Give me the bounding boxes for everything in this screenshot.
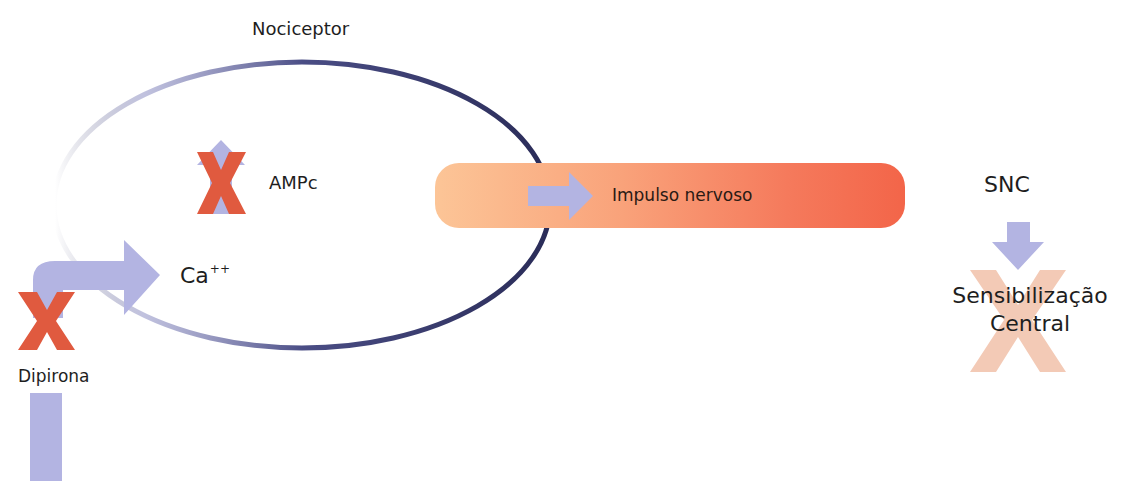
dipirona-label: Dipirona [18, 366, 90, 386]
calcium-charge: ++ [210, 262, 230, 276]
ampc-label: AMPc [269, 172, 318, 193]
dipirona-stem-bar [30, 393, 62, 481]
diagram-overlay [0, 0, 1125, 491]
calcium-symbol: Ca [180, 263, 209, 288]
central-sensitization-line1: Sensibilização [925, 282, 1125, 310]
central-sensitization-line2: Central [925, 310, 1125, 338]
snc-label: SNC [984, 172, 1030, 197]
impulse-arrow-icon [528, 172, 593, 220]
calcium-label: Ca++ [180, 262, 230, 288]
snc-down-arrow-icon [992, 222, 1044, 270]
nociceptor-label: Nociceptor [252, 18, 349, 39]
impulse-label: Impulso nervoso [612, 185, 752, 205]
central-sensitization-label: Sensibilização Central [925, 282, 1125, 338]
